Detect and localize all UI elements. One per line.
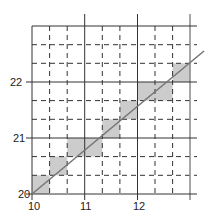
y-tick-22: 22 — [10, 76, 22, 88]
x-tick-10: 10 — [28, 200, 40, 212]
y-tick-21: 21 — [13, 132, 25, 144]
y-tick-20: 20 — [18, 188, 30, 200]
x-tick-12: 12 — [133, 200, 145, 212]
diagonal-line — [32, 51, 204, 194]
x-tick-11: 11 — [80, 200, 91, 212]
grid-diagram: 10 11 12 20 21 22 — [0, 0, 216, 222]
